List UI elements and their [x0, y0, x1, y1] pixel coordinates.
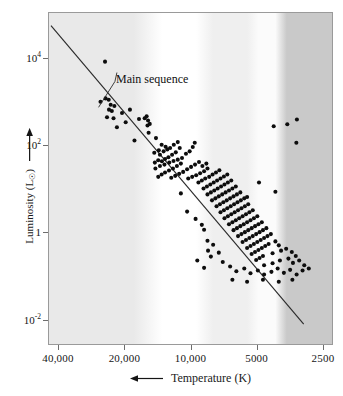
hr-diagram-figure: Main sequence 40,00020,00010,00050002500…: [0, 0, 343, 396]
x-axis-tick-4: [323, 345, 324, 350]
x-axis-tick-label-3: 5000: [245, 352, 268, 364]
y-axis-tick-label-3: 10-2: [24, 314, 41, 326]
left-arrow-icon: [130, 372, 164, 387]
y-axis-tick-label-0: 104: [26, 52, 41, 64]
x-axis-title-text: Temperature (K): [171, 371, 251, 385]
x-axis-title: Temperature (K): [48, 371, 333, 387]
y-axis-tick-1: [43, 145, 48, 146]
x-axis-tick-3: [257, 345, 258, 350]
x-axis-tick-1: [124, 345, 125, 350]
up-arrow-icon: [23, 128, 38, 162]
main-sequence-annotation-label: Main sequence: [116, 72, 188, 87]
y-axis-tick-0: [43, 58, 48, 59]
plot-area: [48, 12, 333, 345]
x-axis-tick-label-1: 20,000: [109, 352, 140, 364]
x-axis-tick-label-0: 40,000: [42, 352, 73, 364]
sun-symbol-icon: ☉: [28, 173, 37, 180]
y-axis-title-text: Luminosity (L☉): [23, 169, 35, 244]
y-axis-title-prefix: Luminosity (L: [23, 180, 35, 244]
y-axis-tick-2: [43, 232, 48, 233]
x-axis-tick-0: [58, 345, 59, 350]
y-axis-tick-3: [43, 320, 48, 321]
x-axis-tick-2: [191, 345, 192, 350]
y-axis-title: Luminosity (L☉): [22, 96, 38, 276]
annotation-leader-line: [49, 13, 332, 344]
x-axis-tick-label-4: 2500: [312, 352, 335, 364]
y-axis-title-suffix: ): [23, 169, 35, 173]
x-axis-tick-label-2: 10,000: [175, 352, 206, 364]
